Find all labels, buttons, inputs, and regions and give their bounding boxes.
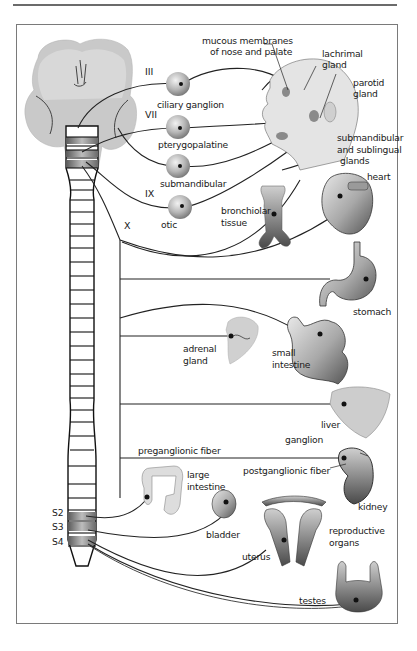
- label-otic: otic: [161, 219, 177, 230]
- bladder-icon: [212, 490, 236, 518]
- label-uterus: uterus: [242, 551, 271, 562]
- label-adrenal-1: adrenal: [183, 343, 216, 354]
- label-ganglion: ganglion: [285, 434, 323, 445]
- label-postganglionic: postganglionic fiber: [243, 465, 331, 476]
- ciliary-ganglion-icon: [166, 72, 190, 96]
- label-large-int-2: intestine: [187, 481, 226, 492]
- label-pterygopalatine: pterygopalatine: [158, 139, 229, 150]
- label-adrenal-2: gland: [183, 355, 208, 366]
- label-S2: S2: [52, 507, 63, 518]
- label-repro-2: organs: [329, 537, 360, 548]
- label-nerve-IX: IX: [145, 188, 155, 199]
- label-mucous-2: of nose and palate: [210, 46, 293, 57]
- label-mucous-1: mucous membranes: [202, 35, 293, 46]
- label-nerve-X: X: [124, 220, 131, 231]
- label-parotid-2: gland: [353, 88, 378, 99]
- label-subsub-2: and sublingual: [337, 144, 402, 155]
- label-stomach: stomach: [353, 306, 391, 317]
- label-lachrimal-1: lachrimal: [322, 48, 363, 59]
- heart-icon: [322, 173, 373, 234]
- label-large-int-1: large: [187, 469, 210, 480]
- parasympathetic-diagram: III VII IX X ciliary ganglion pterygopal…: [0, 0, 417, 651]
- label-ciliary-ganglion: ciliary ganglion: [157, 99, 224, 110]
- label-nerve-III: III: [145, 66, 153, 77]
- label-repro-1: reproductive: [329, 525, 385, 536]
- bronchiolar-icon: [259, 186, 290, 248]
- label-nerve-VII: VII: [145, 109, 157, 120]
- label-heart: heart: [367, 171, 391, 182]
- kidney-icon: [338, 448, 373, 504]
- label-testes: testes: [299, 595, 326, 606]
- label-S3: S3: [52, 521, 64, 532]
- label-bladder: bladder: [206, 529, 240, 540]
- adrenal-gland-icon: [226, 317, 258, 364]
- label-S4: S4: [52, 536, 64, 547]
- label-kidney: kidney: [358, 501, 388, 512]
- label-bronch-1: bronchiolar: [221, 205, 271, 216]
- label-small-int-2: intestine: [272, 359, 311, 370]
- label-liver: liver: [321, 419, 340, 430]
- label-subsub-3: glands: [340, 155, 370, 166]
- large-intestine-icon: [142, 466, 183, 514]
- label-bronch-2: tissue: [221, 217, 248, 228]
- label-subsub-1: submandibular: [337, 132, 404, 143]
- otic-ganglion-icon: [168, 195, 192, 219]
- label-preganglionic: preganglionic fiber: [138, 445, 221, 456]
- pterygopalatine-ganglion-icon: [166, 115, 190, 139]
- label-parotid-1: parotid: [353, 77, 384, 88]
- stomach-icon: [320, 242, 376, 306]
- uterus-icon: [262, 496, 326, 566]
- label-submandibular-ganglion: submandibular: [160, 178, 227, 189]
- small-intestine-icon: [288, 317, 348, 384]
- label-small-int-1: small: [272, 347, 295, 358]
- spinal-cord: [66, 126, 98, 566]
- label-lachrimal-2: gland: [322, 59, 347, 70]
- liver-icon: [330, 387, 390, 438]
- testes-icon: [336, 562, 382, 613]
